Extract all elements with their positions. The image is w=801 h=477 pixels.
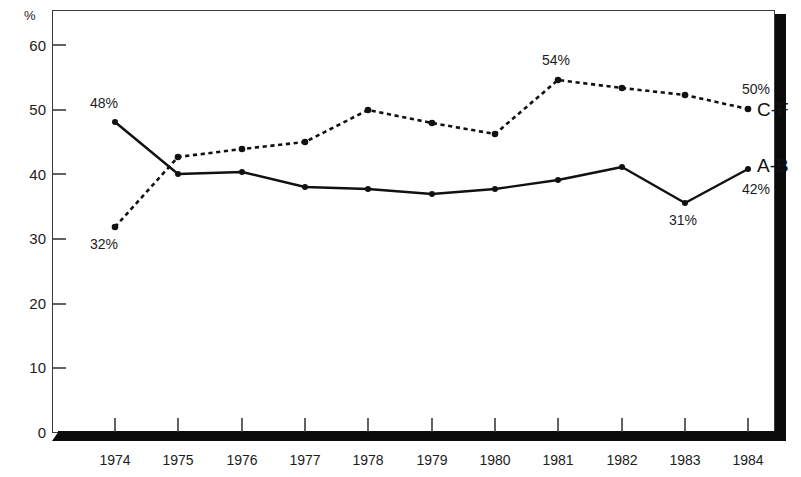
annotation-50-percent: 50%: [742, 81, 770, 97]
series-markers-c-f: [112, 77, 752, 231]
series-markers-a-b: [112, 119, 751, 206]
series-label-a-b: A-B: [757, 155, 789, 177]
x-axis-ticks: [115, 418, 748, 432]
annotation-54-percent: 54%: [542, 52, 570, 68]
series-line-a-b: [115, 122, 748, 203]
annotation-32-percent: 32%: [90, 236, 118, 252]
annotation-31-percent: 31%: [669, 212, 697, 228]
line-chart: % 60 50 40 30 20 10 0 1974 1975 1976 197…: [0, 0, 801, 477]
annotation-42-percent: 42%: [742, 181, 770, 197]
y-axis-ticks: [52, 45, 66, 368]
series-label-c-f: C-F: [757, 99, 789, 121]
plot-canvas: [0, 0, 801, 477]
series-line-c-f: [115, 80, 748, 227]
annotation-48-percent: 48%: [90, 95, 118, 111]
